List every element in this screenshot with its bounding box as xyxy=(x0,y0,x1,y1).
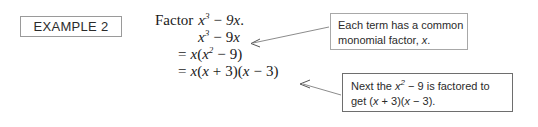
callout-2-line-1: Next the x2 − 9 is factored to xyxy=(351,79,506,94)
factor-prompt-word: Factor xyxy=(155,12,193,28)
callout-2-variable-2: x xyxy=(405,95,411,107)
step-common-factor: =x(x2−9) xyxy=(155,46,278,63)
arrowhead-2 xyxy=(300,80,310,88)
callout-2-line-2-prefix: get ( xyxy=(351,95,373,107)
step-difference-of-squares: =x(x+3)(x−3) xyxy=(155,63,278,80)
leader-line-2 xyxy=(303,84,341,95)
callout-common-monomial: Each term has a common monomial factor, … xyxy=(330,13,468,50)
problem-statement: Factorx3−9x. xyxy=(155,12,278,29)
callout-1-line-1: Each term has a common xyxy=(338,18,461,33)
callout-2-exponent: 2 xyxy=(401,78,405,87)
callout-2-variable-1: x xyxy=(373,95,379,107)
problem-period: . xyxy=(240,12,244,28)
example-label-text: EXAMPLE 2 xyxy=(34,19,109,34)
callout-1-line-2-text: monomial factor, xyxy=(338,34,419,46)
callout-2-line-1-prefix: Next the xyxy=(351,80,392,92)
callout-factor-difference: Next the x2 − 9 is factored to get (x + … xyxy=(342,73,513,112)
callout-2-line-2-middle: + 3)( xyxy=(382,95,405,107)
problem-term: 9x xyxy=(226,12,240,28)
callout-2-line-2: get (x + 3)(x − 3). xyxy=(351,94,506,109)
problem-minus: − xyxy=(214,12,222,28)
callout-2-line-2-suffix: − 3). xyxy=(413,95,435,107)
step-original: x3−9x xyxy=(155,29,278,46)
example-label-box: EXAMPLE 2 xyxy=(20,16,122,37)
worked-solution: Factorx3−9x. x3−9x =x(x2−9) =x(x+3)(x−3) xyxy=(155,12,278,80)
problem-exponent: 3 xyxy=(205,11,210,21)
callout-1-line-2: monomial factor, x. xyxy=(338,33,461,48)
callout-1-period: . xyxy=(427,34,430,46)
problem-base: x xyxy=(198,12,205,28)
callout-2-line-1-suffix: − 9 is factored to xyxy=(408,80,490,92)
